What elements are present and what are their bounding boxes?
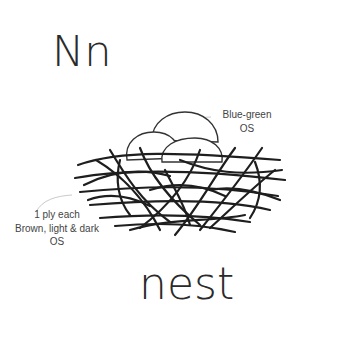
- nest-strands-icon: [75, 148, 285, 235]
- nest-label: 1 ply each Brown, light & dark OS: [14, 208, 100, 249]
- egg-label: Blue-green OS: [212, 108, 282, 135]
- egg-label-line2: OS: [212, 122, 282, 136]
- nest-label-line2: Brown, light & dark: [14, 222, 100, 236]
- egg-label-line1: Blue-green: [212, 108, 282, 122]
- nest-label-line1: 1 ply each: [14, 208, 100, 222]
- nest-label-line3: OS: [14, 235, 100, 249]
- word-caption: nest: [139, 262, 234, 306]
